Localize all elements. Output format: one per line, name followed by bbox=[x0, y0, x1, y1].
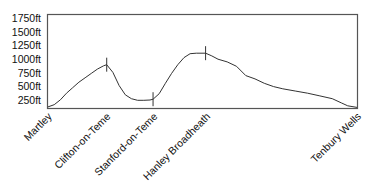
elevation-line bbox=[48, 53, 357, 107]
waypoint-markers bbox=[107, 46, 206, 106]
